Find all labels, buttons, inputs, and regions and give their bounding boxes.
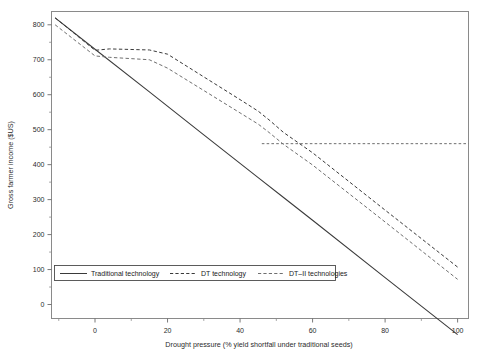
y-tick-label: 600 [33,91,45,98]
x-tick-label: 20 [164,327,172,334]
chart-figure: 020406080100 0100200300400500600700800 D… [0,0,482,359]
y-tick-label: 500 [33,126,45,133]
line-chart-canvas: 020406080100 0100200300400500600700800 D… [0,0,482,359]
chart-legend: Traditional technologyDT technologyDT–II… [55,266,348,281]
x-tick-label: 60 [309,327,317,334]
x-axis-title: Drought pressure (% yield shortfall unde… [165,340,352,349]
y-tick-label: 300 [33,196,45,203]
legend-label-2: DT–II technologies [289,270,348,278]
x-tick-label: 0 [93,327,97,334]
y-tick-label: 0 [41,301,45,308]
y-tick-label: 200 [33,231,45,238]
figure-background [0,0,482,359]
legend-label-1: DT technology [201,270,247,278]
y-tick-label: 400 [33,161,45,168]
x-tick-label: 40 [236,327,244,334]
legend-label-0: Traditional technology [91,270,160,278]
x-tick-label: 100 [452,327,464,334]
y-tick-label: 800 [33,21,45,28]
y-tick-label: 700 [33,56,45,63]
legend-items: Traditional technologyDT technologyDT–II… [60,270,348,278]
x-tick-label: 80 [381,327,389,334]
y-axis-title: Gross farmer income ($US) [6,121,15,209]
y-tick-label: 100 [33,266,45,273]
